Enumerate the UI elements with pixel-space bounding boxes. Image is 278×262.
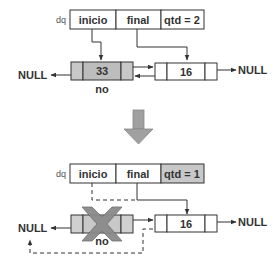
final-pointer-arrow [137,29,187,60]
field-inicio: inicio [79,14,108,26]
node-33: 33 [71,62,133,80]
node-16: 16 [155,63,217,80]
node-16: 16 [155,215,217,232]
null-left-label: NULL [18,222,48,234]
node-value: 16 [180,218,192,230]
null-left-label: NULL [18,69,48,81]
down-arrow-icon [124,110,153,144]
struct-dq: inicio final qtd = 2 [70,10,204,29]
field-final: final [127,14,150,26]
node-value: 16 [180,66,192,78]
struct-dq: inicio final qtd = 1 [70,164,204,183]
removed-node-label-no: no [95,235,109,247]
null-right-label: NULL [238,216,268,228]
final-pointer-arrow [137,183,187,214]
struct-label-dq: dq [56,15,66,25]
node-label-no: no [95,83,109,95]
inicio-pointer-arrow [92,29,101,60]
field-final: final [127,168,150,180]
linked-list-diagram: dq inicio final qtd = 2 33 no 16 [0,0,278,262]
null-right-label: NULL [238,64,268,76]
node-value: 33 [96,65,108,77]
field-qtd: qtd = 2 [164,14,200,26]
struct-label-dq: dq [56,169,66,179]
field-qtd-highlighted: qtd = 1 [164,168,200,180]
after-state: dq inicio final qtd = 1 no 1 [18,164,268,253]
field-inicio: inicio [79,168,108,180]
old-inicio-dashed-pointer [92,183,137,200]
before-state: dq inicio final qtd = 2 33 no 16 [18,10,268,95]
